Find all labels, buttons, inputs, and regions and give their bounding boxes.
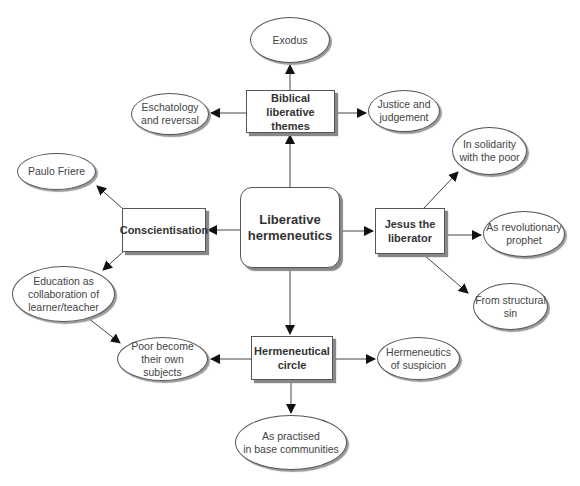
node-label: Justice and judgement [377,98,430,124]
leaf-eschatology-and-reversal: Eschatology and reversal [131,93,209,135]
node-label: Education as collaboration of learner/te… [28,275,99,314]
leaf-hermeneutics-of-suspicion: Hermeneutics of suspicion [377,337,460,380]
node-label: As revolutionary prophet [486,221,561,247]
node-label: Conscientisation [120,223,209,237]
arrow-conscientisation-to-education [103,252,123,270]
leaf-from-structural-sin: From structural sin [473,283,548,330]
node-label: Hermeneutics of suspicion [386,346,451,372]
node-label: Jesus the liberator [385,217,436,245]
node-label: In solidarity with the poor [459,138,519,164]
node-label: Hermeneutical circle [254,344,330,372]
leaf-paulo-friere: Paulo Friere [17,153,96,190]
node-label: Exodus [272,34,307,47]
node-label: Paulo Friere [28,165,85,178]
leaf-education-collaboration: Education as collaboration of learner/te… [12,266,115,322]
node-label: Biblical liberative themes [247,91,334,133]
node-label: As practised in base communities [243,430,339,456]
leaf-in-solidarity-with-the-poor: In solidarity with the poor [452,127,527,175]
center-node-liberative-hermeneutics: Liberative hermeneutics [240,187,340,268]
liberative-hermeneutics-diagram: Liberative hermeneutics Biblical liberat… [0,0,580,486]
arrow-education-to-poor [88,318,120,343]
hub-hermeneutical-circle: Hermeneutical circle [251,336,333,380]
leaf-as-revolutionary-prophet: As revolutionary prophet [483,211,565,257]
arrow-jesus-to-structural [424,255,468,293]
arrow-conscientisation-to-paulo [97,186,122,208]
arrow-jesus-to-solidarity [424,172,458,208]
node-label: From structural sin [475,294,546,320]
node-label: Liberative hermeneutics [248,212,333,244]
hub-biblical-liberative-themes: Biblical liberative themes [246,90,335,133]
node-label: Eschatology and reversal [141,101,199,127]
leaf-justice-and-judgement: Justice and judgement [368,90,440,132]
leaf-exodus: Exodus [250,17,330,63]
hub-jesus-the-liberator: Jesus the liberator [375,208,445,254]
leaf-poor-become-their-own-subjects: Poor become their own subjects [117,337,208,381]
hub-conscientisation: Conscientisation [122,208,206,252]
leaf-as-practised-in-base-communities: As practised in base communities [235,415,347,470]
node-label: Poor become their own subjects [131,340,193,379]
